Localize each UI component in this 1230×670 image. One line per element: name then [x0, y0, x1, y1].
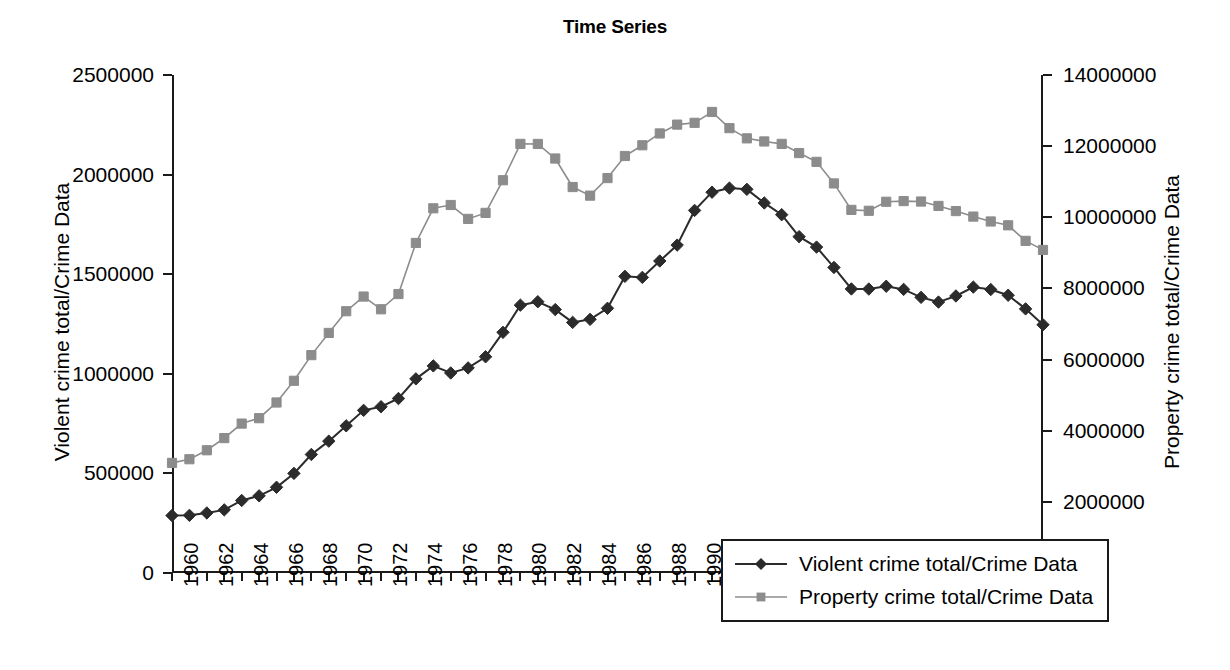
x-axis-tick [171, 573, 173, 581]
data-point-marker [742, 134, 751, 143]
data-point-marker [462, 362, 474, 374]
y-axis-right-tick-label: 14000000 [1063, 63, 1156, 87]
data-point-marker [934, 201, 943, 210]
data-point-marker [464, 214, 473, 223]
x-axis-tick [554, 573, 556, 581]
data-point-marker [220, 434, 229, 443]
data-point-marker [445, 367, 457, 379]
y-axis-right-tick [1043, 430, 1052, 432]
x-axis-tick [276, 573, 278, 581]
data-point-marker [1021, 236, 1030, 245]
data-point-marker [376, 305, 385, 314]
x-axis-tick [380, 573, 382, 581]
legend-item-label: Violent crime total/Crime Data [799, 552, 1078, 576]
x-axis-tick [589, 573, 591, 581]
x-axis-tick [206, 573, 208, 581]
data-point-marker [253, 490, 265, 502]
data-point-marker [411, 238, 420, 247]
legend-item: Violent crime total/Crime Data [733, 547, 1093, 580]
data-point-marker [1038, 245, 1047, 254]
x-axis-tick [659, 573, 661, 581]
data-point-marker [429, 204, 438, 213]
data-point-marker [863, 283, 875, 295]
y-axis-right-tick-label: 8000000 [1063, 276, 1145, 300]
data-point-marker [915, 291, 927, 303]
data-point-marker [324, 328, 333, 337]
y-axis-left-tick-label: 2000000 [72, 163, 154, 187]
chart-title: Time Series [0, 16, 1230, 38]
plot-area: 05000001000000150000020000002500000 0200… [172, 75, 1043, 573]
x-axis-tick [694, 573, 696, 581]
y-axis-left-tick-label: 1000000 [72, 362, 154, 386]
series-property-crime [167, 107, 1047, 467]
data-point-marker [969, 212, 978, 221]
data-point-marker [723, 182, 735, 194]
data-point-marker [359, 292, 368, 301]
y-axis-left-tick-label: 2500000 [72, 63, 154, 87]
data-point-marker [202, 446, 211, 455]
y-axis-left-tick [163, 74, 172, 76]
data-point-marker [481, 208, 490, 217]
data-point-marker [237, 419, 246, 428]
y-axis-right-tick-label: 12000000 [1063, 134, 1156, 158]
data-point-marker [864, 206, 873, 215]
data-point-marker [272, 398, 281, 407]
y-axis-left-tick [163, 472, 172, 474]
data-point-marker [619, 270, 631, 282]
data-point-marker [829, 179, 838, 188]
data-point-marker [167, 458, 176, 467]
data-point-marker [235, 494, 247, 506]
data-point-marker [760, 137, 769, 146]
data-point-marker [897, 283, 909, 295]
y-axis-title-left: Violent crime total/Crime Data [50, 102, 74, 542]
data-point-marker [707, 107, 716, 116]
data-point-marker [516, 139, 525, 148]
legend-item-label: Property crime total/Crime Data [799, 585, 1093, 609]
data-point-marker [603, 173, 612, 182]
data-point-marker [847, 205, 856, 214]
data-point-marker [655, 129, 664, 138]
y-axis-left-tick [163, 373, 172, 375]
y-axis-right-tick [1043, 145, 1052, 147]
data-point-marker [899, 196, 908, 205]
data-point-marker [585, 191, 594, 200]
x-axis-tick [485, 573, 487, 581]
data-point-marker [601, 302, 613, 314]
data-point-marker [880, 280, 892, 292]
x-axis-tick [519, 573, 521, 581]
y-axis-right-tick [1043, 359, 1052, 361]
y-axis-right-tick [1043, 74, 1052, 76]
data-point-marker [584, 313, 596, 325]
data-point-marker [882, 197, 891, 206]
data-point-marker [201, 507, 213, 519]
data-point-marker [638, 141, 647, 150]
data-point-marker [498, 176, 507, 185]
data-point-marker [446, 200, 455, 209]
data-point-marker [568, 182, 577, 191]
data-point-marker [986, 217, 995, 226]
data-point-marker [375, 400, 387, 412]
data-point-marker [950, 290, 962, 302]
x-axis-tick [345, 573, 347, 581]
data-point-marker [985, 283, 997, 295]
data-point-marker [725, 124, 734, 133]
data-point-marker [812, 157, 821, 166]
data-point-marker [967, 281, 979, 293]
data-point-marker [690, 118, 699, 127]
data-point-marker [185, 455, 194, 464]
data-point-marker [289, 376, 298, 385]
chart-page: g p y Time Series Violent crime total/Cr… [0, 0, 1230, 670]
data-point-marker [551, 154, 560, 163]
x-axis-tick [450, 573, 452, 581]
y-axis-title-right: Property crime total/Crime Data [1160, 102, 1184, 542]
data-point-marker [777, 139, 786, 148]
y-axis-right-tick-label: 4000000 [1063, 419, 1145, 443]
series-line [172, 188, 1043, 515]
series-line [172, 112, 1043, 463]
y-axis-left-tick-label: 500000 [84, 461, 154, 485]
y-axis-right-tick [1043, 287, 1052, 289]
data-point-marker [166, 509, 178, 521]
square-marker-icon [733, 586, 789, 608]
data-point-marker [255, 414, 264, 423]
data-point-marker [916, 197, 925, 206]
